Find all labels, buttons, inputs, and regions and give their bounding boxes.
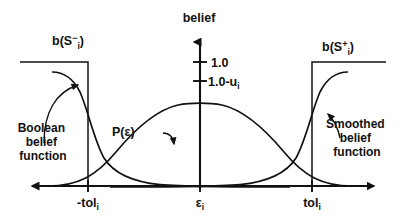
boolean-positive-curve-label: b(S+i) <box>322 39 354 57</box>
y-tick-label-one: 1.0 <box>211 56 228 70</box>
probability-curve-label: P(ε) <box>112 125 135 139</box>
boolean-belief-function-annotation: Boolean belief function <box>18 121 69 163</box>
x-tick-label-epsilon: εi <box>196 196 204 212</box>
x-tick-label-pos-tol: toli <box>303 196 321 212</box>
y-axis-title: belief <box>183 11 216 25</box>
x-tick-label-neg-tol: -toli <box>77 196 99 212</box>
probability-annotation-leader <box>163 133 174 144</box>
boolean-negative-curve-label: b(S−i) <box>52 33 84 51</box>
belief-function-figure: belief 1.0 1.0-ui -toli εi toli b(S−i) b… <box>0 0 406 224</box>
figure-canvas: belief 1.0 1.0-ui -toli εi toli b(S−i) b… <box>0 0 406 224</box>
y-tick-label-one-minus-u: 1.0-ui <box>208 75 240 91</box>
smoothed-belief-function-annotation: Smoothed belief function <box>326 117 388 159</box>
